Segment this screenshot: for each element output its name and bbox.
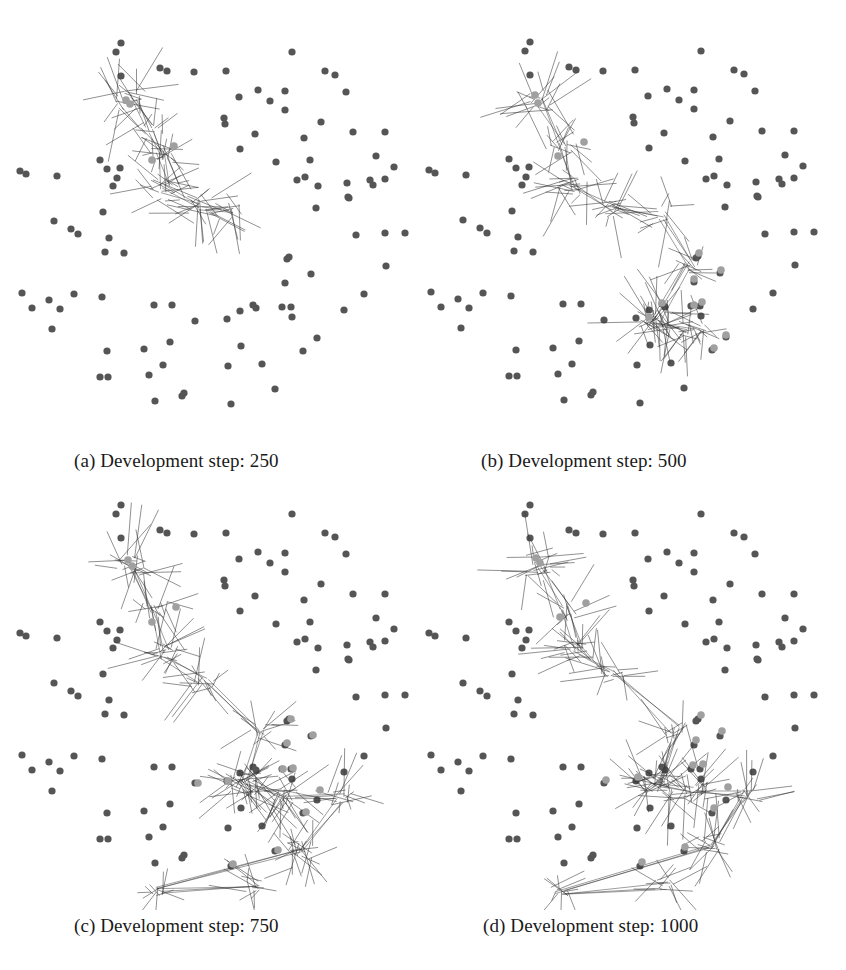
node [476, 224, 483, 231]
node [266, 97, 273, 104]
node [104, 835, 111, 842]
node [258, 360, 265, 367]
node [791, 724, 798, 731]
node [512, 164, 519, 171]
node [702, 175, 709, 182]
node [321, 529, 328, 536]
active-node [316, 786, 324, 794]
node [50, 217, 57, 224]
node [645, 144, 652, 151]
node [112, 48, 119, 55]
node [145, 371, 152, 378]
node [53, 172, 60, 179]
node [508, 207, 515, 214]
node [168, 763, 175, 770]
node [459, 216, 466, 223]
node [514, 696, 521, 703]
node [529, 248, 536, 255]
node [306, 618, 313, 625]
node [680, 384, 687, 391]
node [317, 580, 324, 587]
edges-b [480, 51, 726, 376]
node [761, 230, 768, 237]
node [465, 304, 472, 311]
node [769, 752, 776, 759]
node [381, 691, 388, 698]
active-node [638, 858, 646, 866]
node [697, 510, 704, 517]
node [560, 396, 567, 403]
node [369, 643, 376, 650]
node [156, 64, 163, 71]
node [382, 724, 389, 731]
node [730, 66, 737, 73]
node [513, 372, 520, 379]
active-node [690, 301, 698, 309]
node [526, 38, 533, 45]
active-node [309, 731, 317, 739]
node [381, 175, 388, 182]
node [575, 337, 582, 344]
node [740, 70, 747, 77]
node [190, 530, 197, 537]
node [299, 347, 306, 354]
node [758, 590, 765, 597]
node [222, 529, 229, 536]
node [505, 372, 512, 379]
node [360, 290, 367, 297]
node [99, 670, 106, 677]
node [151, 859, 158, 866]
node [749, 768, 756, 775]
node [476, 687, 483, 694]
node [761, 693, 768, 700]
node [56, 305, 63, 312]
node [166, 800, 173, 807]
node [190, 68, 197, 75]
node [288, 510, 295, 517]
node [18, 751, 25, 758]
active-node [695, 249, 703, 257]
node [751, 550, 758, 557]
node [810, 228, 817, 235]
node [381, 128, 388, 135]
node [109, 182, 116, 189]
active-node [698, 298, 706, 306]
node [427, 751, 434, 758]
node [723, 181, 730, 188]
node [465, 767, 472, 774]
node [572, 529, 579, 536]
node [312, 204, 319, 211]
node [343, 179, 350, 186]
node [222, 67, 229, 74]
node [753, 192, 760, 199]
active-node [531, 91, 539, 99]
node [722, 796, 729, 803]
node [96, 618, 103, 625]
node [156, 526, 163, 533]
node [18, 289, 25, 296]
panel-d [420, 490, 840, 910]
node [67, 225, 74, 232]
node [70, 290, 77, 297]
node [663, 85, 670, 92]
node [681, 620, 688, 627]
active-node [148, 156, 156, 164]
node [427, 288, 434, 295]
node [224, 824, 231, 831]
node [512, 627, 519, 634]
node [168, 301, 175, 308]
node [140, 807, 147, 814]
active-nodes-c [124, 556, 324, 868]
node [301, 173, 308, 180]
node [629, 113, 636, 120]
node [721, 203, 728, 210]
node [631, 529, 638, 536]
node [99, 208, 106, 215]
active-node [534, 99, 542, 107]
node [272, 620, 279, 627]
node [459, 679, 466, 686]
node [529, 711, 536, 718]
node [644, 555, 651, 562]
node [50, 679, 57, 686]
node [381, 637, 388, 644]
